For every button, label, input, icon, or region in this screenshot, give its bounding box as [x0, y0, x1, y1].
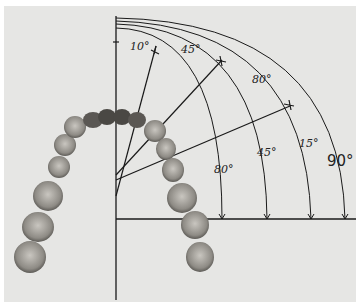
label-80-top: 80° [252, 73, 272, 86]
tooth [22, 212, 54, 242]
tooth [167, 183, 197, 213]
baseline-arrows [219, 214, 348, 219]
label-45: 45° [180, 43, 201, 56]
tooth [186, 242, 214, 272]
tooth [64, 116, 86, 138]
figure: 10° 45° 80° 80° 45° 15° 90° [0, 0, 360, 306]
tooth [33, 181, 63, 211]
label-45-arc: 45° [256, 146, 277, 159]
label-15-arc: 15° [299, 137, 319, 150]
tooth [128, 112, 146, 128]
label-90-arc: 90° [327, 152, 354, 170]
tooth [48, 156, 70, 178]
label-80-arc: 80° [214, 163, 234, 176]
teeth-front [83, 109, 146, 128]
dental-arch [14, 109, 214, 273]
marker-10 [151, 46, 159, 54]
label-10: 10° [130, 40, 150, 53]
teeth-left [14, 116, 86, 273]
diagram-svg: 10° 45° 80° 80° 45° 15° 90° [0, 0, 360, 306]
tooth [14, 241, 46, 273]
tooth [113, 109, 131, 125]
tooth [181, 211, 209, 239]
tooth [156, 138, 176, 160]
tooth [162, 158, 184, 182]
arc-90 [116, 18, 345, 219]
